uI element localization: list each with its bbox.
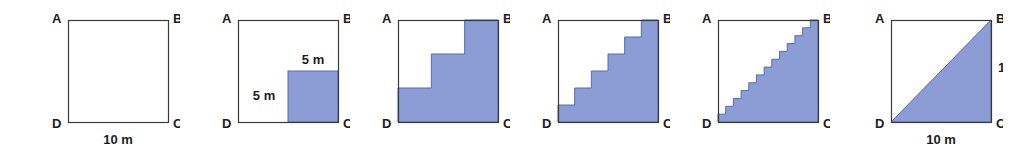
shaded-region: [891, 20, 991, 122]
dimension-label-bottom: 10 m: [103, 132, 133, 147]
figure-2-one-step: ABCD5 m5 m: [170, 0, 350, 150]
shaded-region: [718, 20, 818, 122]
vertex-label-c: C: [996, 116, 1003, 131]
vertex-label-d: D: [222, 116, 231, 131]
vertex-label-a: A: [542, 11, 552, 26]
vertex-label-a: A: [702, 11, 712, 26]
figure-strip: ABCD10 mABCD5 m5 mABCDABCDABCDABCD10 m10…: [0, 0, 1035, 150]
vertex-label-d: D: [52, 116, 61, 131]
figure-1-empty-square: ABCD10 m: [0, 0, 180, 150]
vertex-label-d: D: [382, 116, 391, 131]
vertex-label-d: D: [875, 116, 884, 131]
shaded-region: [398, 20, 498, 122]
dimension-label-inner-horizontal: 5 m: [302, 52, 324, 67]
vertex-label-b: B: [996, 11, 1003, 26]
dimension-label-right: 10 m: [998, 60, 1003, 75]
vertex-label-d: D: [542, 116, 551, 131]
dimension-label-bottom: 10 m: [926, 132, 956, 147]
vertex-label-a: A: [382, 11, 392, 26]
vertex-label-a: A: [222, 11, 232, 26]
dimension-label-inner-vertical: 5 m: [253, 88, 275, 103]
shaded-region: [558, 20, 658, 122]
figure-5-thirteen-steps: ABCD: [650, 0, 830, 150]
square-outline: [69, 21, 169, 123]
figure-6-triangle: ABCD10 m10 m: [823, 0, 1003, 150]
vertex-label-a: A: [52, 11, 62, 26]
figure-3-three-steps: ABCD: [330, 0, 510, 150]
vertex-label-a: A: [875, 11, 885, 26]
figure-4-six-steps: ABCD: [490, 0, 670, 150]
vertex-label-d: D: [702, 116, 711, 131]
